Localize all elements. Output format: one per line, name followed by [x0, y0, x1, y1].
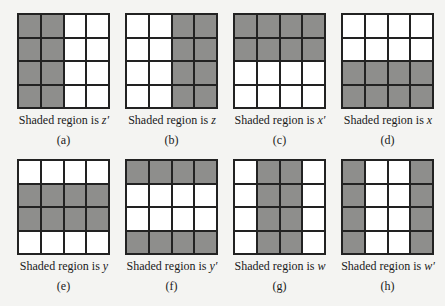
shaded-cell [64, 184, 87, 208]
shaded-cell [342, 61, 365, 85]
shaded-cell [302, 38, 325, 62]
unshaded-cell [342, 14, 365, 38]
shaded-cell [18, 14, 41, 38]
shaded-cell [342, 160, 365, 184]
map-grid [125, 159, 218, 255]
unshaded-cell [302, 160, 325, 184]
panel-label: (h) [341, 279, 434, 294]
shaded-cell [365, 85, 388, 109]
caption: Shaded region is y′ [117, 259, 227, 274]
unshaded-cell [86, 85, 109, 109]
unshaded-cell [86, 14, 109, 38]
shaded-cell [172, 231, 195, 255]
shaded-cell [280, 184, 303, 208]
unshaded-cell [302, 231, 325, 255]
map-grid [233, 13, 326, 109]
shaded-cell [257, 38, 280, 62]
caption: Shaded region is w [225, 259, 335, 274]
shaded-cell [410, 207, 433, 231]
shaded-cell [410, 231, 433, 255]
shaded-cell [126, 160, 149, 184]
shaded-cell [41, 61, 64, 85]
shaded-cell [280, 160, 303, 184]
panel-label: (f) [125, 279, 218, 294]
unshaded-cell [280, 85, 303, 109]
shaded-cell [234, 14, 257, 38]
unshaded-cell [302, 61, 325, 85]
unshaded-cell [86, 231, 109, 255]
shaded-cell [388, 85, 411, 109]
unshaded-cell [149, 38, 172, 62]
map-grid [17, 159, 110, 255]
shaded-cell [41, 184, 64, 208]
unshaded-cell [365, 231, 388, 255]
unshaded-cell [388, 184, 411, 208]
shaded-cell [41, 38, 64, 62]
unshaded-cell [18, 231, 41, 255]
panel-label: (g) [233, 279, 326, 294]
unshaded-cell [410, 38, 433, 62]
shaded-cell [194, 61, 217, 85]
panel-label: (e) [17, 279, 110, 294]
unshaded-cell [388, 231, 411, 255]
unshaded-cell [388, 160, 411, 184]
unshaded-cell [257, 61, 280, 85]
shaded-cell [149, 231, 172, 255]
shaded-cell [388, 61, 411, 85]
unshaded-cell [149, 61, 172, 85]
shaded-cell [342, 231, 365, 255]
unshaded-cell [302, 184, 325, 208]
caption: Shaded region is w′ [333, 259, 443, 274]
shaded-cell [172, 160, 195, 184]
unshaded-cell [234, 160, 257, 184]
caption: Shaded region is y [9, 259, 119, 274]
unshaded-cell [86, 38, 109, 62]
unshaded-cell [410, 14, 433, 38]
unshaded-cell [64, 61, 87, 85]
shaded-cell [410, 85, 433, 109]
unshaded-cell [126, 184, 149, 208]
shaded-cell [280, 14, 303, 38]
shaded-cell [18, 184, 41, 208]
shaded-cell [86, 207, 109, 231]
shaded-cell [410, 160, 433, 184]
map-grid [125, 13, 218, 109]
shaded-cell [172, 61, 195, 85]
unshaded-cell [388, 38, 411, 62]
unshaded-cell [126, 85, 149, 109]
unshaded-cell [365, 184, 388, 208]
unshaded-cell [234, 61, 257, 85]
unshaded-cell [365, 207, 388, 231]
shaded-cell [234, 38, 257, 62]
shaded-cell [18, 207, 41, 231]
map-grid [341, 13, 434, 109]
shaded-cell [410, 184, 433, 208]
unshaded-cell [149, 207, 172, 231]
unshaded-cell [172, 207, 195, 231]
caption: Shaded region is x′ [225, 113, 335, 128]
shaded-cell [342, 207, 365, 231]
unshaded-cell [194, 184, 217, 208]
shaded-cell [18, 61, 41, 85]
unshaded-cell [18, 160, 41, 184]
shaded-cell [64, 207, 87, 231]
unshaded-cell [388, 14, 411, 38]
unshaded-cell [234, 207, 257, 231]
unshaded-cell [64, 85, 87, 109]
shaded-cell [257, 207, 280, 231]
shaded-cell [126, 231, 149, 255]
unshaded-cell [149, 85, 172, 109]
shaded-cell [194, 14, 217, 38]
caption: Shaded region is x [333, 113, 443, 128]
shaded-cell [280, 231, 303, 255]
unshaded-cell [172, 184, 195, 208]
unshaded-cell [149, 184, 172, 208]
unshaded-cell [41, 231, 64, 255]
panel-label: (b) [125, 133, 218, 148]
shaded-cell [280, 38, 303, 62]
unshaded-cell [126, 14, 149, 38]
unshaded-cell [388, 207, 411, 231]
unshaded-cell [86, 160, 109, 184]
caption: Shaded region is z [117, 113, 227, 128]
shaded-cell [194, 85, 217, 109]
